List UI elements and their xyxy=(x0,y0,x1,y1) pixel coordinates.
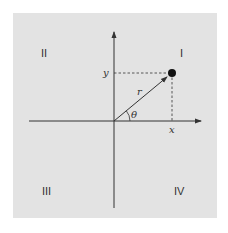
quadrant-label-3: III xyxy=(42,185,51,197)
polar-coordinates-diagram: II I III IV y x r θ xyxy=(0,0,228,233)
theta-label: θ xyxy=(131,109,137,120)
radius-label: r xyxy=(137,86,143,97)
quadrant-label-1: I xyxy=(180,47,183,59)
radius-vector xyxy=(114,77,167,121)
x-coordinate-label: x xyxy=(169,124,175,135)
theta-arc xyxy=(126,111,130,121)
point-marker xyxy=(168,69,176,77)
quadrant-label-2: II xyxy=(41,47,47,59)
y-coordinate-label: y xyxy=(102,67,109,78)
quadrant-label-4: IV xyxy=(174,185,185,197)
